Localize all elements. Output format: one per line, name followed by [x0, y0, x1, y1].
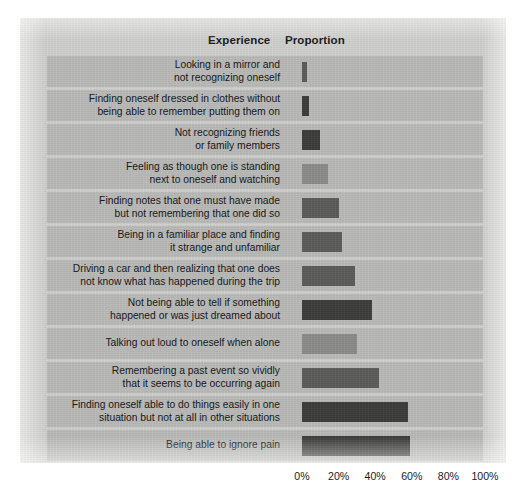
chart-row: Looking in a mirror and not recognizing … [47, 56, 483, 87]
axis-tick-label: 20% [328, 470, 349, 482]
row-label: Finding oneself able to do things easily… [47, 399, 290, 424]
row-plot-area [290, 294, 483, 325]
row-plot-area [290, 158, 483, 189]
chart-row: Feeling as though one is standing next t… [47, 158, 483, 189]
row-plot-area [290, 396, 483, 427]
row-label: Finding notes that one must have made bu… [47, 195, 290, 220]
row-plot-area [290, 192, 483, 223]
x-axis: 0%20%40%60%80%100% [47, 470, 483, 485]
row-label: Finding oneself dressed in clothes witho… [47, 93, 290, 118]
figure-panel: Experience Proportion Looking in a mirro… [20, 18, 506, 463]
row-label: Not recognizing friends or family member… [47, 127, 290, 152]
chart-row: Finding oneself able to do things easily… [47, 396, 483, 427]
row-plot-area [290, 328, 483, 359]
bar [302, 62, 307, 82]
chart-row: Being able to ignore pain [47, 430, 483, 461]
row-label: Feeling as though one is standing next t… [47, 161, 290, 186]
bar [302, 130, 320, 150]
axis-tick-label: 0% [294, 470, 309, 482]
bar [302, 368, 379, 388]
bar [302, 300, 372, 320]
bar [302, 232, 342, 252]
row-label: Remembering a past event so vividly that… [47, 365, 290, 390]
bar [302, 198, 339, 218]
chart-row: Not being able to tell if something happ… [47, 294, 483, 325]
chart-row: Finding oneself dressed in clothes witho… [47, 90, 483, 121]
chart-row: Finding notes that one must have made bu… [47, 192, 483, 223]
row-plot-area [290, 56, 483, 87]
row-plot-area [290, 90, 483, 121]
row-label: Being able to ignore pain [47, 439, 290, 451]
chart-rows: Looking in a mirror and not recognizing … [47, 56, 483, 464]
chart-row: Remembering a past event so vividly that… [47, 362, 483, 393]
row-plot-area [290, 260, 483, 291]
row-plot-area [290, 430, 483, 461]
chart-row: Not recognizing friends or family member… [47, 124, 483, 155]
row-label: Not being able to tell if something happ… [47, 297, 290, 322]
row-label: Talking out loud to oneself when alone [47, 337, 290, 349]
column-header-experience: Experience [208, 34, 270, 46]
row-label: Looking in a mirror and not recognizing … [47, 59, 290, 84]
row-plot-area [290, 362, 483, 393]
row-label: Driving a car and then realizing that on… [47, 263, 290, 288]
axis-tick-label: 40% [365, 470, 386, 482]
row-plot-area [290, 226, 483, 257]
axis-tick-label: 60% [401, 470, 422, 482]
row-label: Being in a familiar place and finding it… [47, 229, 290, 254]
bar [302, 266, 355, 286]
chart-row: Being in a familiar place and finding it… [47, 226, 483, 257]
bar [302, 96, 309, 116]
axis-tick-label: 80% [438, 470, 459, 482]
axis-tick-label: 100% [471, 470, 498, 482]
column-headers: Experience Proportion [20, 34, 506, 52]
row-plot-area [290, 124, 483, 155]
chart-row: Driving a car and then realizing that on… [47, 260, 483, 291]
bar [302, 436, 410, 456]
bar [302, 164, 328, 184]
column-header-proportion: Proportion [285, 34, 345, 46]
chart-row: Talking out loud to oneself when alone [47, 328, 483, 359]
bar [302, 334, 357, 354]
bar [302, 402, 408, 422]
